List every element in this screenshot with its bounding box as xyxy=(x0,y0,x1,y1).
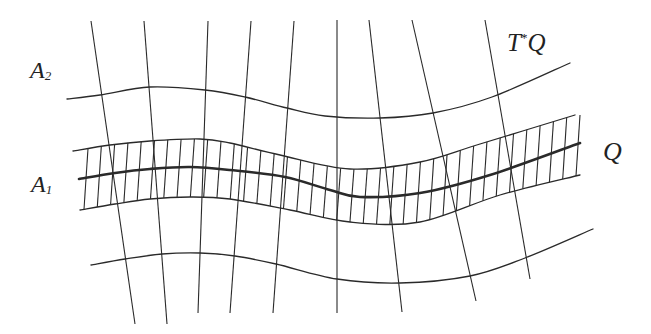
label-a2: A2 xyxy=(30,58,51,82)
hatch-line xyxy=(496,138,500,196)
section-curves xyxy=(67,63,593,283)
hatch-line xyxy=(323,166,327,218)
fiber-line xyxy=(412,20,476,301)
curve-a2 xyxy=(67,63,570,118)
hatch-line xyxy=(523,130,527,189)
label-a1-subscript: 1 xyxy=(46,182,53,197)
label-tq-q: Q xyxy=(527,29,545,56)
cotangent-bundle-diagram xyxy=(0,0,651,334)
band-lower-edge xyxy=(80,175,580,225)
label-a2-subscript: 2 xyxy=(45,68,52,83)
diagram-canvas: A2 A1 T*Q Q xyxy=(0,0,651,334)
label-base-q: Q xyxy=(603,139,622,165)
label-tq-star: * xyxy=(521,30,528,45)
hatch-line xyxy=(244,147,248,201)
label-cotangent-bundle: T*Q xyxy=(507,30,545,55)
hatch-line xyxy=(297,160,301,211)
fiber-line xyxy=(144,21,167,324)
label-a1-main: A xyxy=(31,171,46,197)
hatch-line xyxy=(456,150,460,211)
hatch-line xyxy=(470,146,474,206)
hatch-line xyxy=(483,142,487,201)
fiber-line xyxy=(485,20,530,279)
fiber-line xyxy=(230,21,251,313)
label-a1: A1 xyxy=(31,172,52,196)
hatch-line xyxy=(536,126,540,186)
curve-bottom xyxy=(91,229,593,283)
label-q-main: Q xyxy=(603,137,622,166)
label-tq-t: T xyxy=(507,29,521,56)
cotangent-fibers xyxy=(91,20,530,324)
fiber-line xyxy=(273,21,294,313)
label-a2-main: A xyxy=(30,57,45,83)
hatch-line xyxy=(270,154,274,206)
hatch-line xyxy=(310,163,314,214)
hatch-line xyxy=(257,150,261,203)
